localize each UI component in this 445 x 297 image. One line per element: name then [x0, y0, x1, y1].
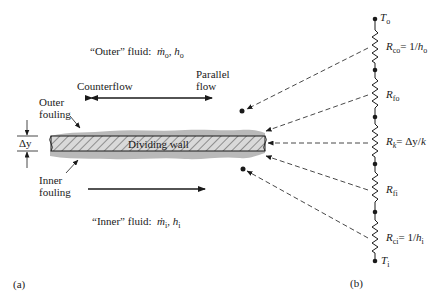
resistor-rfo-label: Rfo: [386, 88, 399, 105]
r-sub: fo: [393, 94, 400, 103]
mdot-symbol: ṁ: [157, 215, 165, 227]
outer-fouling-pointer: [70, 116, 80, 128]
node-t-inner: [373, 259, 378, 264]
leader-rfi: [266, 156, 368, 190]
node-3: [373, 162, 378, 167]
parallel-flow-line2: flow: [196, 80, 230, 92]
t-outer-label: To: [380, 11, 390, 28]
resistance-circuit: [372, 19, 378, 261]
resistor-rfi-label: Rfi: [386, 183, 398, 200]
resistor-rci-label: Rci= 1/hi: [386, 231, 424, 248]
outer-fouling-line1: Outer: [39, 96, 71, 108]
mdot-sub: o: [165, 51, 169, 60]
r-symbol: R: [386, 231, 393, 243]
inner-fouling-label: Inner fouling: [39, 174, 71, 198]
resistor-rk-label: Rk= Δy/k: [386, 135, 426, 152]
inner-fouling-line2: fouling: [39, 186, 71, 198]
inner-fluid-text: “Inner” fluid:: [92, 215, 152, 227]
h-sub: o: [180, 51, 184, 60]
r-eq: = 1/: [400, 40, 418, 52]
outer-fluid-label: “Outer” fluid: ṁo, ho: [90, 45, 184, 62]
parallel-flow-label: Parallel flow: [196, 68, 230, 92]
h-sub: i: [422, 237, 424, 246]
r-symbol: R: [386, 135, 393, 147]
outer-fouling-layer: [50, 130, 265, 136]
leader-rfo: [266, 95, 368, 131]
mdot-symbol: ṁ: [157, 45, 165, 57]
node-2: [373, 115, 378, 120]
node-1: [373, 68, 378, 73]
dividing-wall-label: Dividing wall: [128, 138, 189, 150]
t-sub: i: [387, 260, 389, 269]
panel-b-label: (b): [350, 277, 363, 289]
h-sub: o: [423, 46, 427, 55]
outer-fluid-point: [240, 109, 245, 114]
r-symbol: R: [386, 40, 393, 52]
outer-fouling-line2: fouling: [39, 108, 71, 120]
r-eq: = Δy/: [396, 135, 421, 147]
r-symbol: R: [386, 88, 393, 100]
leader-rco: [247, 48, 368, 109]
k-symbol: k: [421, 135, 426, 147]
r-eq: = 1/: [399, 231, 417, 243]
inner-fluid-point: [241, 167, 246, 172]
delta-y-label: Δy: [19, 137, 32, 149]
inner-fouling-line1: Inner: [39, 174, 71, 186]
r-symbol: R: [386, 183, 393, 195]
t-inner-label: Ti: [381, 254, 389, 271]
resistor-rco-label: Rco= 1/ho: [386, 40, 427, 57]
mdot-sub: i: [165, 221, 167, 230]
leader-rci: [247, 171, 368, 238]
node-t-outer: [373, 17, 378, 22]
inner-fluid-label: “Inner” fluid: ṁi, hi: [92, 215, 180, 232]
parallel-flow-line1: Parallel: [196, 68, 230, 80]
t-sub: o: [386, 17, 390, 26]
inner-fouling-pointer: [66, 160, 78, 173]
h-sub: i: [178, 221, 180, 230]
panel-a-label: (a): [13, 278, 25, 290]
thermal-resistance-diagram: [0, 0, 445, 297]
counterflow-label: Counterflow: [77, 80, 133, 92]
r-sub: fi: [393, 189, 398, 198]
node-4: [373, 210, 378, 215]
outer-fluid-text: “Outer” fluid:: [90, 45, 151, 57]
inner-fouling-layer: [50, 151, 265, 159]
outer-fouling-label: Outer fouling: [39, 96, 71, 120]
